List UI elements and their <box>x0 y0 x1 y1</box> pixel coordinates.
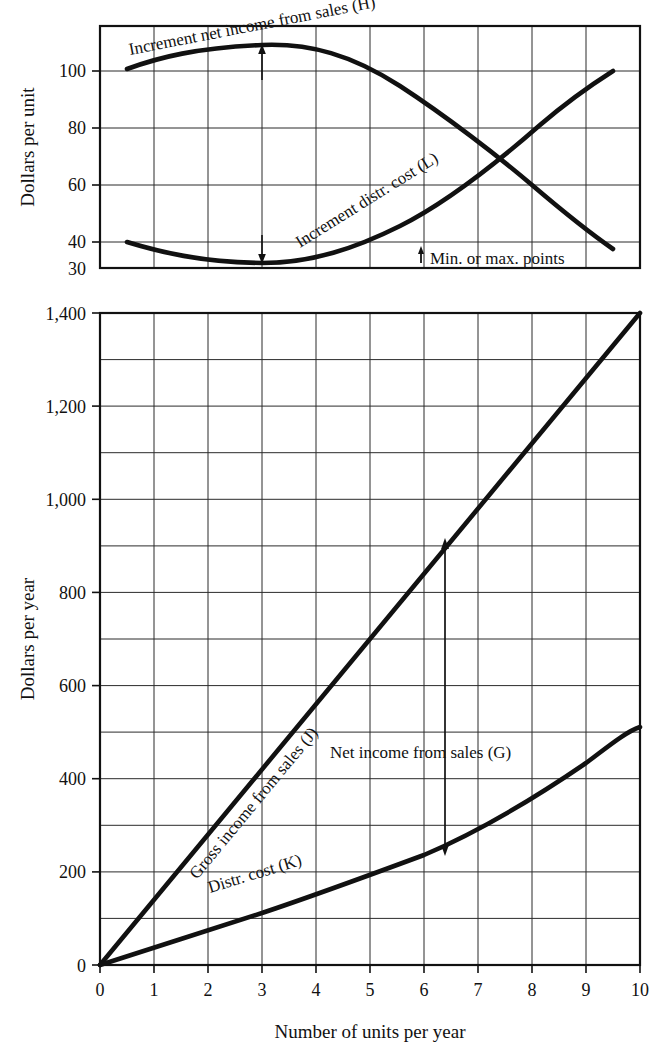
bottom-chart-y-axis-title: Dollars per year <box>17 577 38 700</box>
bottom-chart-ytick-400: 400 <box>59 769 86 789</box>
bottom-chart-xtick-3: 3 <box>258 980 267 1000</box>
top-chart-ytick-80: 80 <box>68 118 86 138</box>
bottom-chart-xtick-5: 5 <box>366 980 375 1000</box>
bottom-chart-xtick-1: 1 <box>150 980 159 1000</box>
economics-increment-chart: 100 80 60 40 30 Dollars per unit Increme… <box>0 0 669 1058</box>
bottom-chart-xtick-2: 2 <box>204 980 213 1000</box>
bottom-chart-ytick-800: 800 <box>59 583 86 603</box>
figure-container: 100 80 60 40 30 Dollars per unit Increme… <box>0 0 669 1058</box>
top-chart-ytick-60: 60 <box>68 175 86 195</box>
bottom-chart-xtick-8: 8 <box>528 980 537 1000</box>
bottom-chart-xtick-7: 7 <box>474 980 483 1000</box>
bottom-chart-ytick-1000: 1,000 <box>46 490 87 510</box>
bottom-chart-net-income-note: Net income from sales (G) <box>330 743 511 762</box>
top-chart-minmax-note: Min. or max. points <box>418 246 565 268</box>
top-chart-ytick-40: 40 <box>68 232 86 252</box>
bottom-chart-ytick-1400: 1,400 <box>46 304 87 324</box>
bottom-chart-xtick-10: 10 <box>631 980 649 1000</box>
top-chart-ytick-100: 100 <box>59 61 86 81</box>
bottom-chart-ytick-200: 200 <box>59 862 86 882</box>
top-chart-minmax-note-label: Min. or max. points <box>430 249 565 268</box>
bottom-chart-xtick-6: 6 <box>420 980 429 1000</box>
bottom-chart-ytick-600: 600 <box>59 676 86 696</box>
bottom-chart-xtick-9: 9 <box>582 980 591 1000</box>
x-axis-title: Number of units per year <box>275 1021 467 1042</box>
bottom-chart-ytick-1200: 1,200 <box>46 397 87 417</box>
top-chart-ytick-30: 30 <box>68 259 86 279</box>
bottom-chart-xtick-0: 0 <box>96 980 105 1000</box>
bottom-chart-xtick-4: 4 <box>312 980 321 1000</box>
bottom-chart-ytick-0: 0 <box>77 956 86 976</box>
top-chart-y-axis-title: Dollars per unit <box>17 87 38 207</box>
